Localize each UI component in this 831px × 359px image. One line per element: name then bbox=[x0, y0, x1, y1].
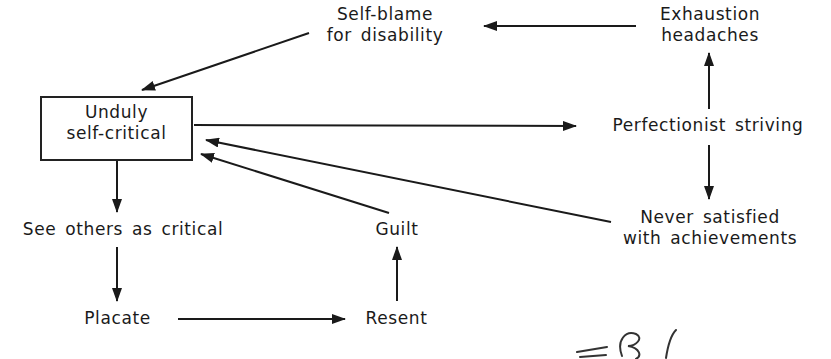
node-placate-label: Placate bbox=[70, 308, 165, 329]
node-placate: Placate bbox=[70, 308, 165, 329]
node-self-blame-line2: for disability bbox=[305, 25, 465, 46]
node-exhaustion-line1: Exhaustion bbox=[640, 4, 780, 25]
node-self-blame: Self-blame for disability bbox=[305, 4, 465, 46]
node-unduly-line1: Unduly bbox=[42, 102, 191, 123]
node-never-satisfied-line2: with achievements bbox=[610, 228, 810, 249]
edge-guilt-to-unduly bbox=[201, 154, 389, 213]
node-unduly-self-critical: Unduly self-critical bbox=[40, 96, 193, 161]
node-exhaustion-line2: headaches bbox=[640, 25, 780, 46]
node-resent: Resent bbox=[354, 308, 439, 329]
edge-neversatisfied-to-unduly bbox=[206, 140, 611, 222]
node-guilt-label: Guilt bbox=[362, 219, 432, 240]
edge-selfblame-to-unduly bbox=[142, 33, 309, 90]
node-perfectionist-label: Perfectionist striving bbox=[588, 115, 828, 136]
node-see-others-as-critical: See others as critical bbox=[0, 219, 246, 240]
diagram: Self-blame for disability Exhaustion hea… bbox=[0, 0, 831, 359]
node-unduly-line2: self-critical bbox=[42, 123, 191, 144]
node-never-satisfied: Never satisfied with achievements bbox=[610, 207, 810, 249]
node-self-blame-line1: Self-blame bbox=[305, 4, 465, 25]
node-perfectionist-striving: Perfectionist striving bbox=[588, 115, 828, 136]
node-never-satisfied-line1: Never satisfied bbox=[610, 207, 810, 228]
edge-unduly-to-perfectionist bbox=[194, 125, 576, 126]
edges-layer bbox=[0, 0, 831, 359]
node-guilt: Guilt bbox=[362, 219, 432, 240]
node-exhaustion: Exhaustion headaches bbox=[640, 4, 780, 46]
handwritten-mark bbox=[577, 330, 676, 359]
node-resent-label: Resent bbox=[354, 308, 439, 329]
node-see-others-label: See others as critical bbox=[0, 219, 246, 240]
